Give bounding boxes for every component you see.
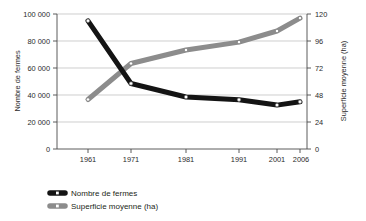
data-point-fermes-1961	[86, 19, 89, 22]
x-tick-label-1991: 1991	[231, 155, 247, 164]
x-axis-tick-labels: 1961 1971 1981 1991 2001 2006	[80, 155, 309, 164]
legend-label-nombre-de-fermes: Nombre de fermes	[71, 189, 137, 198]
data-point-superficie-1961	[86, 98, 89, 101]
data-point-fermes-1991	[237, 98, 240, 101]
legend: Nombre de fermes Superficie moyenne (ha)	[50, 189, 158, 211]
left-tick-label-60000: 60 000	[27, 64, 50, 73]
series-markers-superficie-moyenne	[86, 16, 301, 101]
right-axis-tick-labels: 120 96 72 48 24 0	[315, 10, 327, 154]
right-tick-label-24: 24	[315, 118, 323, 127]
x-tick-label-2001: 2001	[269, 155, 285, 164]
line-chart: 100 000 80 000 60 000 40 000 20 000 0 12…	[0, 0, 366, 221]
bottom-axis-ticks	[88, 149, 300, 153]
data-point-superficie-1991	[237, 40, 240, 43]
right-axis-title: Superficie moyenne (ha)	[339, 41, 348, 122]
data-point-fermes-1981	[184, 95, 187, 98]
left-axis-title: Nombre de fermes	[13, 50, 22, 112]
right-tick-label-0: 0	[315, 145, 319, 154]
series-line-superficie-moyenne	[88, 18, 300, 99]
right-tick-label-48: 48	[315, 91, 323, 100]
data-point-fermes-2006	[298, 100, 301, 103]
x-tick-label-1981: 1981	[178, 155, 194, 164]
x-tick-label-1971: 1971	[123, 155, 139, 164]
series-superficie-moyenne	[86, 16, 301, 101]
data-point-fermes-2001	[275, 103, 278, 106]
data-point-superficie-1971	[129, 62, 132, 65]
data-point-superficie-2006	[298, 16, 301, 19]
left-tick-label-40000: 40 000	[27, 91, 50, 100]
legend-item-superficie-moyenne[interactable]: Superficie moyenne (ha)	[50, 202, 158, 211]
left-tick-label-20000: 20 000	[27, 118, 50, 127]
left-tick-label-80000: 80 000	[27, 37, 50, 46]
right-tick-label-72: 72	[315, 64, 323, 73]
left-axis-tick-labels: 100 000 80 000 60 000 40 000 20 000 0	[23, 10, 50, 154]
legend-marker-superficie-moyenne	[56, 205, 59, 208]
x-tick-label-2006: 2006	[293, 155, 309, 164]
data-point-fermes-1971	[129, 82, 132, 85]
left-tick-label-0: 0	[46, 145, 50, 154]
left-axis-ticks	[53, 14, 57, 149]
x-tick-label-1961: 1961	[80, 155, 96, 164]
right-tick-label-120: 120	[315, 10, 327, 19]
legend-marker-nombre-de-fermes	[56, 192, 59, 195]
data-point-superficie-2001	[275, 29, 278, 32]
data-point-superficie-1981	[184, 48, 187, 51]
right-axis-ticks	[307, 14, 311, 149]
left-tick-label-100000: 100 000	[23, 10, 50, 19]
legend-item-nombre-de-fermes[interactable]: Nombre de fermes	[50, 189, 137, 198]
chart-container: 100 000 80 000 60 000 40 000 20 000 0 12…	[0, 0, 366, 221]
legend-label-superficie-moyenne: Superficie moyenne (ha)	[71, 202, 158, 211]
right-tick-label-96: 96	[315, 37, 323, 46]
